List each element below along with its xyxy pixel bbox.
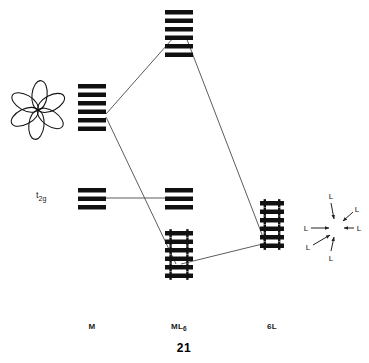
column-label-ml6: ML6 [171, 322, 187, 331]
energy-level-bar [165, 19, 193, 24]
mo-diagram-canvas [0, 0, 369, 363]
energy-level-bar [165, 53, 193, 58]
energy-level-bar [78, 188, 106, 193]
correlation-lines [106, 37, 265, 264]
ligand-donation-arrow-1 [331, 203, 334, 219]
energy-level-bar [165, 36, 193, 41]
energy-level-bar [78, 84, 106, 89]
ligand-donation-arrow-5 [313, 235, 330, 245]
correlation-line-metal-to-antibonding [106, 37, 174, 114]
energy-levels-layer [78, 10, 284, 280]
energy-level-bar [78, 197, 106, 202]
energy-level-bar [165, 265, 193, 270]
energy-level-bar [165, 188, 193, 193]
energy-level-bar [165, 44, 193, 49]
energy-level-bar [165, 274, 193, 279]
level-group-nonbonding-t2g [165, 188, 193, 210]
level-group-metal-t2g [78, 188, 106, 210]
ligand-label-5: L [306, 243, 310, 252]
orbital-label-t2g: t2g [36, 190, 46, 200]
energy-level-bar [165, 240, 193, 245]
column-label-ml6-text: ML [171, 322, 183, 331]
energy-level-bar [78, 93, 106, 98]
ligand-label-4: L [304, 224, 308, 233]
energy-level-bar [78, 110, 106, 115]
column-label-6l-text: 6L [267, 322, 277, 331]
energy-level-bar [165, 231, 193, 236]
ligand-label-6: L [329, 254, 333, 263]
ligand-donation-arrow-2 [343, 212, 353, 221]
correlation-line-bonding-to-ligand [181, 244, 265, 265]
ligand-label-2: L [355, 205, 359, 214]
energy-level-bar [165, 257, 193, 262]
mo-diagram-figure: M ML6 6L t2g LLLLLL 21 [0, 0, 369, 363]
ligand-field-arrows [311, 203, 354, 251]
column-label-6l: 6L [267, 322, 277, 331]
ligand-donation-arrow-6 [331, 237, 334, 251]
column-label-m: M [89, 322, 96, 331]
orbital-label-t2g-subscript: 2g [39, 195, 47, 202]
energy-level-bar [78, 127, 106, 132]
correlation-line-antibonding-to-ligand [186, 37, 265, 241]
energy-level-bar [165, 10, 193, 15]
energy-level-bar [78, 118, 106, 123]
figure-number: 21 [177, 341, 191, 355]
level-group-ligand-lone-pairs [260, 199, 284, 250]
ligand-label-1: L [329, 192, 333, 201]
ligand-label-3: L [357, 224, 361, 233]
energy-level-bar [165, 27, 193, 32]
energy-level-bar [78, 205, 106, 210]
column-label-ml6-subscript: 6 [183, 325, 187, 332]
level-group-metal-valence-orbitals [78, 84, 106, 131]
level-group-antibonding-set [165, 10, 193, 57]
d-orbital-rosette-icon [8, 80, 67, 140]
level-group-bonding-set [165, 229, 193, 280]
energy-level-bar [78, 101, 106, 106]
column-label-m-text: M [89, 322, 96, 331]
energy-level-bar [165, 248, 193, 253]
energy-level-bar [165, 205, 193, 210]
energy-level-bar [165, 197, 193, 202]
